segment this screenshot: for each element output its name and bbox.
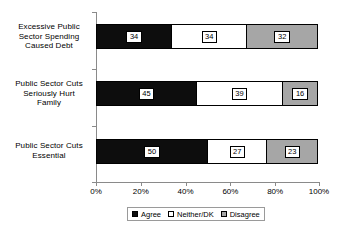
bar-segment-disagree[interactable]: 32	[246, 24, 318, 49]
bar-value-label: 45	[139, 88, 154, 100]
y-axis-tick-2	[92, 126, 96, 127]
bar-row: 45 39 16	[96, 81, 320, 106]
plot-area: 34 34 32 45 39 16 50	[96, 12, 320, 182]
bar-value-label: 32	[274, 31, 289, 43]
x-axis-label-60: 60%	[210, 187, 250, 197]
category-label-1: Public Sector Cuts Seriously Hurt Family	[6, 79, 92, 108]
category-label-1-line-0: Public Sector Cuts	[6, 79, 92, 89]
y-axis-tick-1	[92, 69, 96, 70]
category-label-2: Public Sector Cuts Essential	[6, 141, 92, 160]
x-axis-tick-40	[186, 182, 187, 186]
bar-segment-disagree[interactable]: 16	[282, 81, 318, 106]
x-axis-tick-80	[275, 182, 276, 186]
bar-segment-disagree[interactable]: 23	[266, 139, 318, 164]
bar-value-label: 50	[144, 146, 159, 158]
bar-row: 34 34 32	[96, 24, 320, 49]
legend-swatch-icon-disagree	[221, 211, 227, 217]
x-axis-line	[96, 182, 320, 183]
bar-segment-agree[interactable]: 34	[96, 24, 172, 49]
legend-item-disagree[interactable]: Disagree	[221, 210, 260, 219]
bar-value-label: 34	[126, 31, 141, 43]
legend-swatch-icon-agree	[132, 211, 138, 217]
category-label-1-line-1: Seriously Hurt	[6, 89, 92, 99]
x-axis-tick-100	[319, 182, 320, 186]
x-axis-label-80: 80%	[255, 187, 295, 197]
bar-value-label: 23	[285, 146, 300, 158]
x-axis-label-40: 40%	[166, 187, 206, 197]
x-axis-label-0: 0%	[76, 187, 116, 197]
x-axis-label-100: 100%	[299, 187, 339, 197]
legend-label-disagree: Disagree	[230, 210, 260, 219]
bar-segment-neither[interactable]: 39	[196, 81, 283, 106]
legend-swatch-icon-neither	[168, 211, 174, 217]
category-label-0-line-0: Excessive Public	[6, 22, 92, 32]
bar-row: 50 27 23	[96, 139, 320, 164]
bar-value-label: 34	[202, 31, 217, 43]
x-axis-tick-0	[96, 182, 97, 186]
bar-segment-agree[interactable]: 45	[96, 81, 197, 106]
stacked-bar-chart: Excessive Public Sector Spending Caused …	[0, 0, 340, 234]
x-axis-label-20: 20%	[121, 187, 161, 197]
category-label-0: Excessive Public Sector Spending Caused …	[6, 22, 92, 51]
x-axis-tick-60	[230, 182, 231, 186]
category-label-2-line-1: Essential	[6, 151, 92, 161]
x-axis-tick-20	[141, 182, 142, 186]
legend-label-neither: Neither/DK	[177, 210, 214, 219]
bar-value-label: 27	[230, 146, 245, 158]
legend-item-neither[interactable]: Neither/DK	[168, 210, 214, 219]
bar-segment-neither[interactable]: 34	[171, 24, 247, 49]
category-label-1-line-2: Family	[6, 98, 92, 108]
legend-label-agree: Agree	[141, 210, 161, 219]
bar-value-label: 16	[292, 88, 307, 100]
bar-segment-neither[interactable]: 27	[207, 139, 267, 164]
category-label-0-line-2: Caused Debt	[6, 41, 92, 51]
bar-value-label: 39	[232, 88, 247, 100]
chart-legend: Agree Neither/DK Disagree	[127, 207, 265, 221]
legend-item-agree[interactable]: Agree	[132, 210, 161, 219]
category-label-0-line-1: Sector Spending	[6, 32, 92, 42]
y-axis-tick-0	[92, 12, 96, 13]
bar-segment-agree[interactable]: 50	[96, 139, 208, 164]
category-label-2-line-0: Public Sector Cuts	[6, 141, 92, 151]
